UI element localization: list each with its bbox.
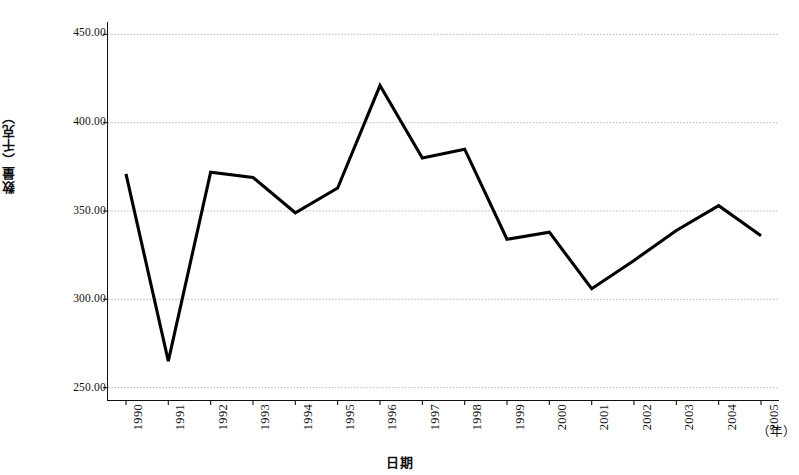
- y-tick-label-400.00: 400.00: [36, 115, 106, 127]
- y-tick-label-350.00: 350.00: [36, 204, 106, 216]
- y-tick-label-250.00: 250.00: [36, 381, 106, 393]
- y-axis-tick-labels: 250.00300.00350.00400.00450.00: [30, 0, 106, 475]
- x-axis-title: 日期: [0, 452, 799, 471]
- x-tick-label-1992: 1992: [216, 404, 231, 430]
- x-axis-tick-labels: 1990199119921993199419951996199719981999…: [107, 404, 779, 454]
- x-tick-label-1998: 1998: [470, 404, 485, 430]
- x-tick-label-2004: 2004: [725, 404, 740, 430]
- line-chart: 数量（千克） 250.00300.00350.00400.00450.00 19…: [0, 0, 799, 475]
- x-tick-label-1996: 1996: [385, 404, 400, 430]
- data-series-line: [108, 22, 779, 400]
- x-tick-label-1995: 1995: [343, 404, 358, 430]
- x-tick-label-1994: 1994: [301, 404, 316, 430]
- x-tick-label-2001: 2001: [597, 404, 612, 430]
- x-tick-label-1990: 1990: [131, 404, 146, 430]
- x-tick-label-1997: 1997: [428, 404, 443, 430]
- x-tick-label-2003: 2003: [682, 404, 697, 430]
- series-line-数量: [126, 86, 761, 362]
- x-tick-label-1999: 1999: [513, 404, 528, 430]
- y-tick-label-450.00: 450.00: [36, 26, 106, 38]
- y-axis-title: 数量（千克）: [2, 110, 28, 194]
- x-tick-label-1993: 1993: [258, 404, 273, 430]
- x-tick-label-2002: 2002: [640, 404, 655, 430]
- y-tick-label-300.00: 300.00: [36, 292, 106, 304]
- x-tick-label-1991: 1991: [173, 404, 188, 430]
- plot-area: [107, 22, 779, 401]
- x-tick-label-2000: 2000: [555, 404, 570, 430]
- x-axis-unit-label: （年）: [757, 421, 796, 440]
